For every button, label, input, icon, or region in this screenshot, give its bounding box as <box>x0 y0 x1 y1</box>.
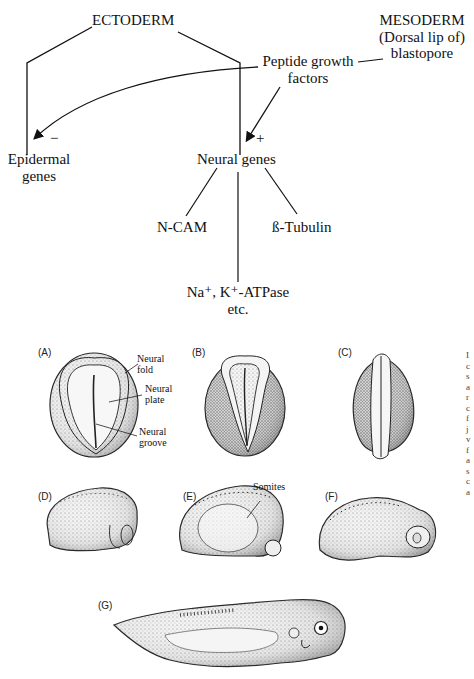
node-ncam: N-CAM <box>157 219 207 236</box>
annotation-neural-fold-line1: Neural <box>137 353 164 364</box>
neural-to-tubulin-line <box>265 168 297 214</box>
panel-label-a: (A) <box>38 347 51 358</box>
node-mesoderm-subtitle: (Dorsal lip of) <box>370 29 474 46</box>
activate-sign: + <box>256 130 264 147</box>
annotation-neural-fold: Neural fold <box>137 353 164 375</box>
node-mesoderm-subtitle2: blastopore <box>370 45 474 62</box>
node-mesoderm: MESODERM (Dorsal lip of) blastopore <box>370 12 474 62</box>
embryo-b-illustration <box>205 356 285 456</box>
embryo-a-illustration <box>50 353 142 457</box>
annotation-neural-fold-line2: fold <box>137 364 164 375</box>
node-neural-genes: Neural genes <box>197 151 276 168</box>
node-mesoderm-title: MESODERM <box>370 12 474 29</box>
panel-label-e: (E) <box>183 491 196 502</box>
annotation-neural-groove-line2: groove <box>139 437 167 448</box>
neural-to-ncam-line <box>186 168 217 216</box>
panel-label-f: (F) <box>325 491 338 502</box>
annotation-neural-groove: Neural groove <box>139 426 167 448</box>
ectoderm-to-neural-line <box>178 32 240 155</box>
node-atpase-line1: Na⁺, K⁺-ATPase <box>180 284 296 301</box>
node-peptide-growth-factors: Peptide growth factors <box>256 53 360 86</box>
inhibit-sign: − <box>50 130 58 147</box>
annotation-somites: Somites <box>253 481 285 492</box>
node-beta-tubulin: ß-Tubulin <box>272 219 331 236</box>
embryo-f-illustration <box>319 498 435 560</box>
node-peptide-line1: Peptide growth <box>256 53 360 70</box>
panel-label-b: (B) <box>192 347 205 358</box>
node-epidermal-line1: Epidermal <box>4 151 74 168</box>
node-epidermal-line2: genes <box>4 168 74 185</box>
node-atpase-line2: etc. <box>180 301 296 318</box>
panel-label-d: (D) <box>38 491 52 502</box>
peptide-inhibit-arrow <box>35 67 258 138</box>
node-peptide-line2: factors <box>256 70 360 87</box>
annotation-neural-plate-line2: plate <box>145 394 172 405</box>
embryo-c-illustration <box>353 354 414 459</box>
diagram-lines <box>0 0 474 679</box>
node-ectoderm: ECTODERM <box>92 12 174 29</box>
panel-label-g: (G) <box>98 600 112 611</box>
annotation-neural-groove-line1: Neural <box>139 426 167 437</box>
node-epidermal-genes: Epidermal genes <box>4 151 74 184</box>
annotation-neural-plate: Neural plate <box>145 383 172 405</box>
cropped-caption-fragment: Icsarcfjvfasca <box>466 350 471 497</box>
embryo-g-illustration <box>114 600 345 667</box>
node-atpase: Na⁺, K⁺-ATPase etc. <box>180 284 296 317</box>
annotation-neural-plate-line1: Neural <box>145 383 172 394</box>
panel-label-c: (C) <box>338 347 352 358</box>
embryo-d-illustration <box>47 488 137 551</box>
